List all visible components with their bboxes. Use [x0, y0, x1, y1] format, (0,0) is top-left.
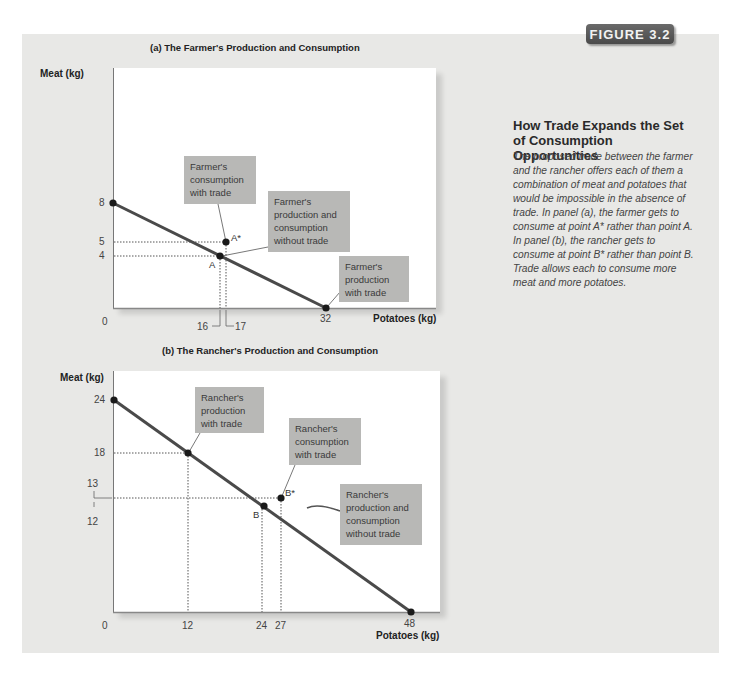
panel-b-x-axis-label: Potatoes (kg) — [376, 630, 439, 641]
point-label-b-star: B* — [285, 487, 295, 498]
panel-b-xtick-24: 24 — [256, 620, 267, 631]
panel-b-xtick-12: 12 — [182, 620, 193, 631]
panel-b-xtick-48: 48 — [404, 618, 415, 629]
panel-b-origin: 0 — [102, 620, 108, 631]
panel-b-ytick-12: 12 — [87, 516, 98, 527]
panel-b-graphics — [0, 0, 741, 676]
note-rancher-without-trade: Rancher's production and consumption wit… — [340, 484, 422, 545]
caption-body: The proposed trade between the farmer an… — [513, 150, 698, 290]
panel-b-ytick-13: 13 — [87, 478, 98, 489]
point-label-b: B — [253, 509, 259, 520]
note-rancher-production-with-trade: Rancher's production with trade — [195, 387, 264, 433]
note-rancher-consumption-with-trade: Rancher's consumption with trade — [289, 418, 361, 465]
panel-b-ytick-24: 24 — [94, 394, 105, 405]
panel-b-xtick-27: 27 — [275, 620, 286, 631]
panel-b-ytick-18: 18 — [94, 447, 105, 458]
